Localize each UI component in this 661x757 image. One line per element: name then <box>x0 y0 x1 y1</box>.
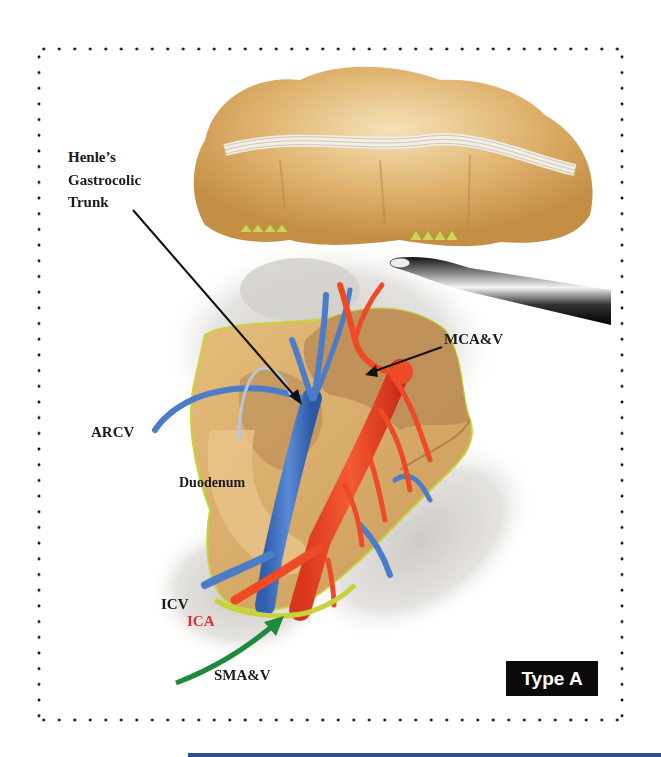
label-henle-line3: Trunk <box>68 193 109 212</box>
bottom-bar <box>188 753 661 757</box>
label-henle-line2: Gastrocolic <box>68 171 141 190</box>
label-smav: SMA&V <box>214 666 271 685</box>
label-duodenum: Duodenum <box>179 473 245 492</box>
transverse-colon <box>194 67 593 246</box>
label-henle-line1: Henle’s <box>68 148 116 167</box>
label-arcv: ARCV <box>91 423 134 442</box>
label-mcav: MCA&V <box>444 330 503 349</box>
anatomy-illustration <box>0 0 661 757</box>
label-ica: ICA <box>187 612 215 631</box>
label-icv: ICV <box>161 595 189 614</box>
type-badge: Type A <box>506 661 598 696</box>
